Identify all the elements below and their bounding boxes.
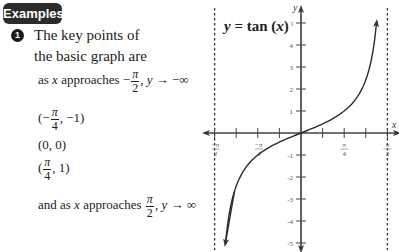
eq-var: x [276,18,284,34]
tan-curve-bottom-arrow [225,191,234,243]
x-axis-label: x [391,119,397,130]
y-tick-label: -5 [287,240,293,248]
y-tick-label: 3 [290,64,294,72]
y-tick-label: -2 [287,174,293,182]
y-tick-label: 4 [290,42,294,50]
x-tick-label-denominator: 2 [214,150,218,158]
x-tick-label-denominator: 2 [386,150,390,158]
eq-mid: = tan ( [231,18,277,34]
x-tick-label-numerator: π [342,141,346,149]
x-tick-label-numerator: π [386,141,390,149]
y-tick-label: -4 [287,218,293,226]
x-tick-label-numerator: −π [255,141,263,149]
x-tick-label-numerator: −π [212,141,220,149]
x-tick-label-denominator: 4 [342,150,346,158]
tan-graph: -5-4-3-2-112345−π2−π4π4π2xy [0,0,399,252]
eq-rhs: ) [284,18,289,34]
y-tick-label: 2 [290,86,294,94]
y-tick-label: -1 [287,152,293,160]
y-axis-label: y [292,2,298,13]
y-tick-label: -3 [287,196,293,204]
equation-label: y = tan (x) [222,18,291,35]
eq-lhs: y [224,18,231,34]
y-tick-label: 1 [290,108,294,116]
